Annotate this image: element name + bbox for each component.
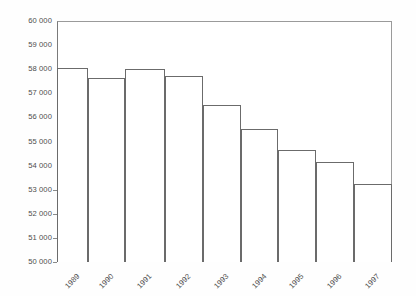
y-axis-tick-label: 52 000 [0, 209, 52, 218]
x-axis-tick-label: 1992 [174, 272, 193, 291]
y-axis-tick-mark [53, 262, 57, 263]
x-axis-tick-label: 1989 [63, 272, 82, 291]
x-axis-tick-label: 1994 [250, 272, 269, 291]
y-axis-tick-label: 60 000 [0, 16, 52, 25]
bar-1994 [241, 129, 279, 262]
y-axis-tick-label: 53 000 [0, 185, 52, 194]
x-axis-tick-label: 1993 [212, 272, 231, 291]
bar-1995 [278, 150, 316, 262]
y-axis-tick-label: 51 000 [0, 233, 52, 242]
x-axis-tick-label: 1996 [325, 272, 344, 291]
x-axis-tick-label: 1995 [287, 272, 306, 291]
bar-1992 [165, 76, 203, 262]
bar-chart: 60 00059 00058 00057 00056 00055 00054 0… [0, 0, 416, 296]
bars-container [57, 21, 392, 262]
y-axis-tick-label: 57 000 [0, 88, 52, 97]
x-axis-tick-label: 1991 [135, 272, 154, 291]
bar-1989 [57, 68, 88, 262]
y-axis-tick-label: 58 000 [0, 64, 52, 73]
bar-1996 [316, 162, 354, 262]
bar-1993 [203, 105, 241, 262]
bar-1997 [354, 184, 392, 262]
y-axis-tick-label: 56 000 [0, 112, 52, 121]
bar-1991 [125, 69, 165, 262]
bar-1990 [88, 78, 125, 262]
y-axis-tick-label: 59 000 [0, 40, 52, 49]
y-axis-tick-label: 50 000 [0, 257, 52, 266]
x-axis-tick-label: 1997 [363, 272, 382, 291]
y-axis-tick-label: 55 000 [0, 137, 52, 146]
x-axis-tick-label: 1990 [97, 272, 116, 291]
y-axis-tick-label: 54 000 [0, 161, 52, 170]
